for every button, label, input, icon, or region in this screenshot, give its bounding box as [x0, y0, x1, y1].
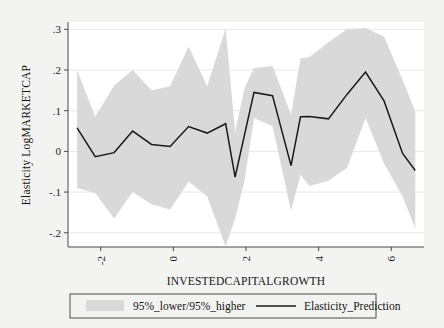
x-tick-label: 6	[385, 256, 397, 262]
x-tick-label: -2	[95, 256, 107, 265]
x-tick-label: 2	[240, 256, 252, 262]
legend-label-band: 95%_lower/95%_higher	[133, 300, 246, 313]
x-tick-label: 0	[167, 256, 179, 262]
chart-legend: 95%_lower/95%_higher Elasticity_Predicti…	[70, 294, 401, 318]
chart-figure: -.2-.10.1.2.3 -20246 Elasticity LogMARKE…	[0, 0, 444, 328]
elasticity-line-chart: -.2-.10.1.2.3 -20246 Elasticity LogMARKE…	[0, 0, 444, 328]
y-axis-title: Elasticity LogMARKETCAP	[20, 65, 33, 205]
legend-label-line: Elasticity_Prediction	[304, 300, 401, 313]
legend-band-swatch	[86, 300, 124, 311]
x-tick-label: 4	[313, 256, 325, 262]
y-tick-label: 0	[56, 145, 62, 157]
y-tick-label: -.1	[49, 186, 61, 198]
y-tick-label: .3	[53, 23, 62, 35]
x-axis-title: INVESTEDCAPITALGROWTH	[167, 275, 326, 287]
y-tick-label: .2	[53, 64, 61, 76]
y-tick-label: -.2	[49, 227, 61, 239]
y-tick-label: .1	[53, 105, 61, 117]
